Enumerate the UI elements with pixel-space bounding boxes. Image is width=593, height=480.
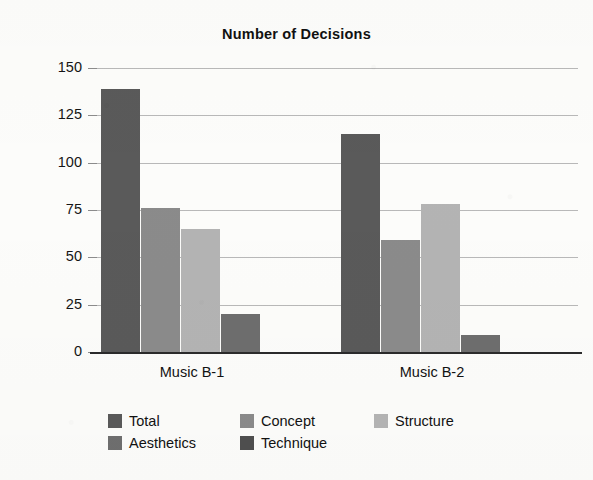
chart-title: Number of Decisions <box>0 26 593 42</box>
bar-concept-music-b-1 <box>141 208 180 352</box>
bar-technique-music-b-1 <box>221 314 260 352</box>
legend-label-technique: Technique <box>261 435 327 451</box>
legend-label-total: Total <box>129 413 160 429</box>
legend-item-technique[interactable]: Technique <box>240 435 374 451</box>
legend-label-aesthetics: Aesthetics <box>129 435 196 451</box>
bar-total-music-b-1 <box>101 89 140 352</box>
legend-swatch-aesthetics <box>108 436 122 450</box>
bars-layer <box>0 68 593 352</box>
bar-chart-figure: Number of Decisions 150 125 100 75 50 25… <box>0 0 593 480</box>
bar-concept-music-b-2 <box>381 240 420 352</box>
chart-legend: Total Concept Structure Aesthetics Techn… <box>108 410 528 454</box>
bar-technique-music-b-2 <box>461 335 500 352</box>
bar-structure-music-b-2 <box>421 204 460 352</box>
x-tick-label-0: Music B-1 <box>96 364 288 380</box>
x-tick-label-1: Music B-2 <box>336 364 528 380</box>
legend-item-structure[interactable]: Structure <box>374 413 514 429</box>
bar-structure-music-b-1 <box>181 229 220 352</box>
legend-label-structure: Structure <box>395 413 454 429</box>
legend-item-aesthetics[interactable]: Aesthetics <box>108 435 240 451</box>
bar-total-music-b-2 <box>341 134 380 352</box>
legend-label-concept: Concept <box>261 413 315 429</box>
legend-item-concept[interactable]: Concept <box>240 413 374 429</box>
legend-row-2: Aesthetics Technique <box>108 432 528 454</box>
legend-swatch-concept <box>240 414 254 428</box>
x-axis-line <box>90 352 582 354</box>
legend-row-1: Total Concept Structure <box>108 410 528 432</box>
legend-swatch-structure <box>374 414 388 428</box>
legend-swatch-total <box>108 414 122 428</box>
legend-swatch-technique <box>240 436 254 450</box>
legend-item-total[interactable]: Total <box>108 413 240 429</box>
